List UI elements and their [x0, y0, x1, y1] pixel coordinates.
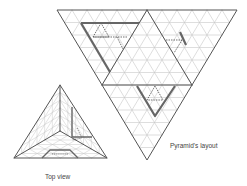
top-view-edges	[14, 85, 107, 158]
pyramid-layout-caption: Pyramid's layout	[170, 142, 217, 149]
pyramid-diagram	[0, 0, 247, 186]
top-view-caption: Top view	[45, 173, 70, 180]
layout-grid-lines	[65, 10, 230, 148]
